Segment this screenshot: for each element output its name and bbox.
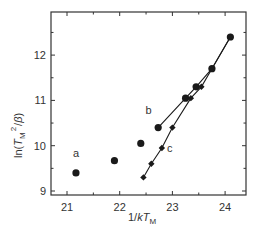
chart-canvas: 212223249101112 abc 1/kTM ln(TM2/β) — [0, 0, 261, 234]
series-label-c: c — [167, 142, 173, 154]
x-tick-label: 22 — [114, 201, 126, 213]
series-b — [155, 33, 234, 131]
series-layer — [72, 33, 234, 180]
y-tick-label: 12 — [34, 49, 46, 61]
data-point-circle — [137, 140, 144, 147]
annotations: abc — [73, 104, 173, 159]
series-label-b: b — [146, 104, 152, 116]
series-c — [140, 34, 233, 181]
data-point-circle — [155, 124, 162, 131]
tick-labels: 212223249101112 — [34, 49, 231, 213]
y-tick-label: 9 — [40, 185, 46, 197]
x-axis-label: 1/kTM — [128, 211, 156, 226]
x-tick-label: 21 — [61, 201, 73, 213]
y-tick-label: 11 — [35, 94, 46, 106]
series-a — [72, 140, 144, 177]
y-axis-label: ln(TM2/β) — [9, 113, 27, 158]
data-point-diamond — [148, 161, 154, 167]
series-label-a: a — [73, 147, 80, 159]
data-point-diamond — [159, 145, 165, 151]
y-tick-label: 10 — [34, 140, 46, 152]
x-tick-label: 23 — [166, 201, 178, 213]
data-point-diamond — [140, 174, 146, 180]
data-point-circle — [111, 157, 118, 164]
x-tick-label: 24 — [219, 201, 231, 213]
data-point-diamond — [169, 124, 175, 130]
data-point-circle — [72, 169, 79, 176]
